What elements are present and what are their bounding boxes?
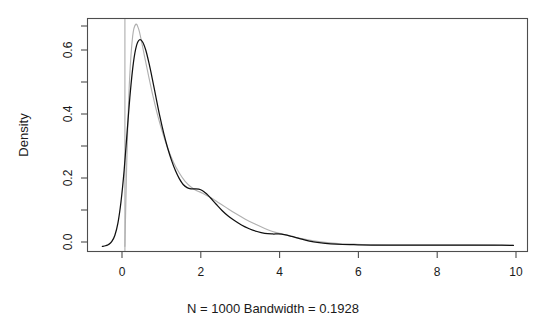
y-tick-label-06: 0.6 bbox=[61, 41, 75, 58]
x-tick-label-6: 6 bbox=[355, 265, 362, 279]
x-tick-label-4: 4 bbox=[276, 265, 283, 279]
plot-caption: N = 1000 Bandwidth = 0.1928 bbox=[187, 301, 359, 316]
x-tick-label-8: 8 bbox=[434, 265, 441, 279]
x-tick-label-10: 10 bbox=[509, 265, 523, 279]
y-tick-label-04: 0.4 bbox=[61, 105, 75, 122]
y-tick-label-00: 0.0 bbox=[61, 233, 75, 250]
x-tick-label-2: 2 bbox=[197, 265, 204, 279]
density-plot-figure: 0 2 4 6 8 10 0.0 0.2 0.4 0.6 Density N =… bbox=[0, 0, 546, 331]
x-tick-label-0: 0 bbox=[119, 265, 126, 279]
y-axis-title: Density bbox=[16, 113, 31, 157]
y-tick-label-02: 0.2 bbox=[61, 169, 75, 186]
